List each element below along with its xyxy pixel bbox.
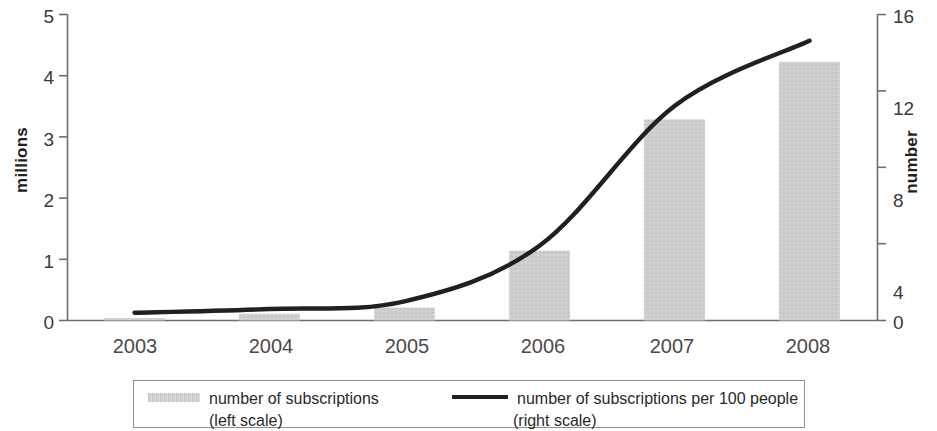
dual-axis-chart: millions number 5 4 3 2 1 0 16 12 8 4 0 … (0, 0, 937, 431)
line-series-final (0, 0, 937, 380)
legend-entry-bar: number of subscriptions (left scale) (148, 388, 379, 431)
legend-line-label: number of subscriptions per 100 people (517, 388, 798, 410)
legend-bar-scale-note: (left scale) (209, 410, 379, 431)
legend-entry-line: number of subscriptions per 100 people (… (452, 388, 798, 431)
legend-bar-label: number of subscriptions (209, 388, 379, 410)
line-swatch-icon (452, 395, 508, 399)
chart-legend: number of subscriptions (left scale) num… (133, 380, 805, 428)
legend-line-scale-note: (right scale) (513, 410, 798, 431)
bar-swatch-icon (148, 393, 200, 402)
